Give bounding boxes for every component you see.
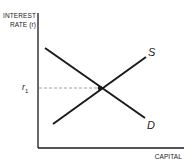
x-axis-label: CAPITAL [155,153,182,160]
chart-canvas [0,0,192,168]
equilibrium-point [98,86,103,91]
supply-label: S [148,46,155,58]
supply-curve [53,57,146,124]
demand-curve [45,48,145,118]
demand-label: D [147,119,155,131]
